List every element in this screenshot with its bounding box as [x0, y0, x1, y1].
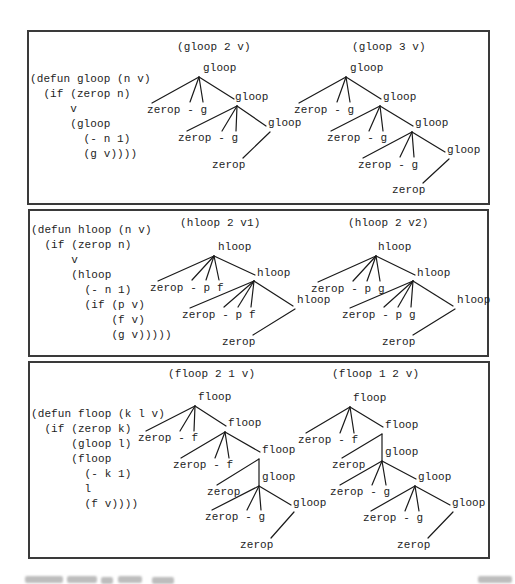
- tree-node-label: hloop: [297, 294, 331, 306]
- tree-node-label: floop: [198, 391, 232, 403]
- tree-node-label: gloop: [268, 117, 302, 129]
- cutoff-text-fragment: [101, 577, 113, 584]
- tree-node-label: hloop: [457, 294, 491, 306]
- tree-node-label: zerop - f: [298, 434, 358, 446]
- code-gloop: (defun gloop (n v) (if (zerop n) v (gloo…: [30, 72, 151, 162]
- tree-node-label: gloop: [350, 62, 384, 74]
- tree-title-gloop-3v: (gloop 3 v): [352, 41, 426, 53]
- scanned-figure-page: (defun gloop (n v) (if (zerop n) v (gloo…: [0, 0, 515, 584]
- tree-node-label: hloop: [257, 267, 291, 279]
- tree-node-label: zerop - g: [147, 104, 207, 116]
- tree-node-label: zerop - g: [327, 132, 387, 144]
- tree-node-label: floop: [228, 417, 262, 429]
- tree-node-label: zerop: [222, 336, 256, 348]
- tree-node-label: zerop - g: [358, 159, 418, 171]
- tree-title-floop-12v: (floop 1 2 v): [332, 368, 419, 380]
- tree-node-label: gloop: [235, 91, 269, 103]
- cutoff-text-fragment: [25, 576, 63, 583]
- tree-node-label: gloop: [383, 91, 417, 103]
- tree-node-label: zerop - f: [138, 432, 198, 444]
- tree-node-label: zerop: [332, 459, 366, 471]
- tree-title-hloop-2v2: (hloop 2 v2): [348, 217, 428, 229]
- tree-node-label: floop: [353, 392, 387, 404]
- tree-title-floop-21v: (floop 2 1 v): [168, 368, 255, 380]
- tree-node-label: zerop - p g: [311, 283, 385, 295]
- tree-node-label: gloop: [415, 117, 449, 129]
- tree-node-label: floop: [262, 444, 296, 456]
- tree-node-label: zerop - p f: [182, 309, 256, 321]
- tree-node-label: gloop: [447, 144, 481, 156]
- tree-node-label: gloop: [262, 471, 296, 483]
- cutoff-text-fragment: [67, 576, 97, 583]
- tree-title-hloop-2v1: (hloop 2 v1): [180, 217, 260, 229]
- tree-node-label: zerop - g: [294, 104, 354, 116]
- tree-node-label: gloop: [452, 497, 486, 509]
- tree-node-label: floop: [385, 419, 419, 431]
- tree-node-label: zerop - f: [173, 459, 233, 471]
- tree-node-label: gloop: [293, 497, 327, 509]
- tree-node-label: hloop: [378, 241, 412, 253]
- tree-node-label: gloop: [203, 62, 237, 74]
- tree-node-label: zerop - p f: [150, 282, 224, 294]
- tree-node-label: zerop: [240, 539, 274, 551]
- tree-node-label: gloop: [418, 471, 452, 483]
- code-floop: (defun floop (k l v) (if (zerop k) (gloo…: [31, 407, 165, 512]
- tree-node-label: zerop: [382, 336, 416, 348]
- tree-node-label: zerop - g: [363, 512, 423, 524]
- tree-node-label: hloop: [417, 267, 451, 279]
- tree-node-label: gloop: [385, 446, 419, 458]
- tree-node-label: zerop - g: [178, 132, 238, 144]
- cutoff-text-fragment: [118, 576, 142, 583]
- tree-node-label: zerop - p g: [342, 309, 416, 321]
- tree-node-label: zerop - g: [205, 511, 265, 523]
- tree-title-gloop-2v: (gloop 2 v): [177, 41, 251, 53]
- tree-node-label: hloop: [218, 241, 252, 253]
- cutoff-text-fragment: [478, 576, 512, 583]
- tree-node-label: zerop: [397, 539, 431, 551]
- cutoff-text-fragment: [152, 577, 174, 584]
- tree-node-label: zerop: [212, 159, 246, 171]
- tree-node-label: zerop: [392, 184, 426, 196]
- tree-node-label: zerop - g: [330, 486, 390, 498]
- tree-node-label: zerop: [207, 486, 241, 498]
